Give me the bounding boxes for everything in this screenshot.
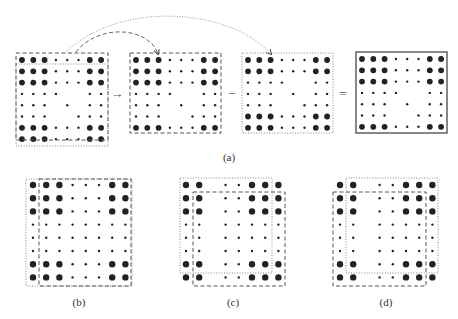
large-dot bbox=[350, 182, 356, 188]
large-dot bbox=[201, 125, 207, 131]
large-dot bbox=[212, 125, 218, 131]
large-dot bbox=[382, 67, 388, 73]
small-dot bbox=[55, 93, 57, 95]
small-dot bbox=[32, 104, 34, 106]
large-dot bbox=[30, 274, 36, 280]
small-dot bbox=[203, 104, 205, 106]
small-dot bbox=[224, 250, 226, 252]
large-dot bbox=[429, 261, 435, 267]
small-dot bbox=[43, 115, 45, 117]
small-dot bbox=[185, 250, 187, 252]
large-dot bbox=[403, 182, 409, 188]
large-dot bbox=[324, 125, 330, 131]
small-dot bbox=[100, 115, 102, 117]
small-dot bbox=[169, 127, 171, 129]
small-dot bbox=[224, 184, 226, 186]
small-dot bbox=[372, 103, 374, 105]
small-dot bbox=[191, 115, 193, 117]
small-dot bbox=[395, 80, 397, 82]
curves-layer bbox=[66, 16, 271, 54]
large-dot bbox=[268, 57, 274, 63]
small-dot bbox=[135, 93, 137, 95]
small-dot bbox=[292, 70, 294, 72]
large-dot bbox=[144, 125, 150, 131]
small-dot bbox=[124, 250, 126, 252]
large-dot bbox=[109, 182, 115, 188]
small-dot bbox=[258, 93, 260, 95]
small-dot bbox=[378, 223, 380, 225]
large-dot bbox=[56, 182, 62, 188]
small-dot bbox=[440, 103, 442, 105]
large-dot bbox=[30, 125, 36, 131]
small-dot bbox=[32, 250, 34, 252]
large-dot bbox=[359, 124, 365, 130]
panel-label-b: (b) bbox=[73, 296, 86, 308]
small-dot bbox=[395, 58, 397, 60]
dot-grid-a4 bbox=[356, 52, 447, 133]
small-dot bbox=[146, 115, 148, 117]
small-dot bbox=[100, 93, 102, 95]
small-dot bbox=[418, 250, 420, 252]
small-dot bbox=[180, 59, 182, 61]
small-dot bbox=[269, 104, 271, 106]
small-dot bbox=[224, 276, 226, 278]
small-dot bbox=[32, 237, 34, 239]
large-dot bbox=[403, 261, 409, 267]
small-dot bbox=[214, 115, 216, 117]
large-dot bbox=[98, 125, 104, 131]
small-dot bbox=[157, 93, 159, 95]
small-dot bbox=[251, 237, 253, 239]
large-dot bbox=[19, 80, 25, 86]
large-dot bbox=[109, 208, 115, 214]
large-dot bbox=[19, 57, 25, 63]
small-dot bbox=[352, 223, 354, 225]
large-dot bbox=[403, 274, 409, 280]
small-dot bbox=[326, 104, 328, 106]
small-dot bbox=[71, 184, 73, 186]
small-dot bbox=[406, 103, 408, 105]
large-dot bbox=[313, 114, 319, 120]
large-dot bbox=[438, 56, 444, 62]
small-dot bbox=[77, 115, 79, 117]
small-dot bbox=[100, 104, 102, 106]
small-dot bbox=[417, 69, 419, 71]
small-dot bbox=[395, 69, 397, 71]
large-dot bbox=[403, 208, 409, 214]
small-dot bbox=[224, 263, 226, 265]
small-dot bbox=[440, 92, 442, 94]
small-dot bbox=[157, 115, 159, 117]
small-dot bbox=[180, 127, 182, 129]
panel-label-d: (d) bbox=[380, 296, 393, 308]
large-dot bbox=[370, 67, 376, 73]
small-dot bbox=[292, 93, 294, 95]
large-dot bbox=[370, 79, 376, 85]
small-dot bbox=[303, 59, 305, 61]
small-dot bbox=[85, 210, 87, 212]
small-dot bbox=[77, 59, 79, 61]
small-dot bbox=[111, 223, 113, 225]
small-dot bbox=[224, 237, 226, 239]
large-dot bbox=[359, 79, 365, 85]
small-dot bbox=[55, 59, 57, 61]
large-dot bbox=[350, 195, 356, 201]
large-dot bbox=[438, 124, 444, 130]
large-dot bbox=[268, 125, 274, 131]
large-dot bbox=[416, 208, 422, 214]
large-dot bbox=[43, 182, 49, 188]
large-dot bbox=[427, 56, 433, 62]
large-dot bbox=[245, 68, 251, 74]
small-dot bbox=[281, 127, 283, 129]
small-dot bbox=[191, 59, 193, 61]
dashed-frame bbox=[333, 192, 426, 286]
large-dot bbox=[350, 208, 356, 214]
large-dot bbox=[313, 68, 319, 74]
large-dot bbox=[324, 57, 330, 63]
small-dot bbox=[247, 104, 249, 106]
small-dot bbox=[406, 58, 408, 60]
dotted-frame bbox=[16, 64, 108, 146]
large-dot bbox=[19, 68, 25, 74]
large-dot bbox=[87, 57, 93, 63]
large-dot bbox=[429, 274, 435, 280]
small-dot bbox=[98, 197, 100, 199]
dot-grid-a2 bbox=[130, 53, 221, 133]
